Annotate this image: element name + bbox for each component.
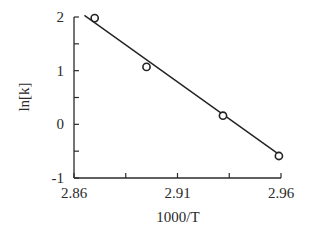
y-ticks: -1012	[52, 9, 80, 186]
y-tick-label: 2	[57, 9, 65, 25]
y-axis-title: ln[k]	[16, 82, 32, 111]
fit-line-group	[84, 15, 279, 154]
data-point-marker	[143, 63, 150, 70]
x-tick-label: 2.91	[164, 185, 190, 201]
x-axis-title: 1000/T	[156, 209, 199, 225]
axes	[74, 17, 281, 178]
data-points	[91, 15, 282, 160]
fit-line	[84, 15, 279, 154]
x-tick-label: 2.96	[268, 185, 295, 201]
arrhenius-chart: 2.862.912.96 -1012 1000/T ln[k]	[0, 0, 311, 235]
y-tick-label: -1	[52, 170, 65, 186]
y-tick-label: 1	[57, 63, 65, 79]
data-point-marker	[275, 152, 282, 159]
x-ticks: 2.862.912.96	[61, 173, 295, 201]
y-tick-label: 0	[57, 116, 65, 132]
data-point-marker	[91, 15, 98, 22]
x-tick-label: 2.86	[61, 185, 88, 201]
data-point-marker	[219, 112, 226, 119]
